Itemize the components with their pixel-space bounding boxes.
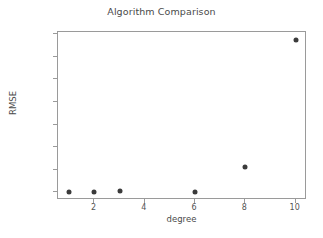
y-axis-label: RMSE bbox=[8, 91, 18, 115]
scatter-point bbox=[92, 190, 97, 195]
y-tick-mark bbox=[53, 191, 57, 192]
scatter-point bbox=[67, 190, 72, 195]
x-tick-mark bbox=[93, 199, 94, 203]
scatter-point bbox=[243, 164, 248, 169]
x-tick-label: 10 bbox=[290, 203, 300, 212]
scatter-point bbox=[117, 189, 122, 194]
scatter-points-layer bbox=[58, 32, 305, 198]
y-tick-mark bbox=[53, 56, 57, 57]
y-tick-mark bbox=[53, 124, 57, 125]
x-axis-label: degree bbox=[57, 214, 306, 224]
chart-figure: Algorithm Comparison RMSE degree 0250500… bbox=[0, 0, 323, 238]
y-tick-mark bbox=[53, 169, 57, 170]
x-tick-mark bbox=[144, 199, 145, 203]
plot-area bbox=[57, 31, 306, 199]
chart-title: Algorithm Comparison bbox=[0, 6, 323, 17]
x-tick-mark bbox=[295, 199, 296, 203]
x-tick-mark bbox=[194, 199, 195, 203]
x-tick-label: 2 bbox=[91, 203, 96, 212]
y-tick-mark bbox=[53, 146, 57, 147]
x-tick-label: 6 bbox=[192, 203, 197, 212]
scatter-point bbox=[193, 189, 198, 194]
scatter-point bbox=[293, 37, 298, 42]
x-tick-mark bbox=[244, 199, 245, 203]
x-tick-label: 4 bbox=[141, 203, 146, 212]
y-tick-mark bbox=[53, 101, 57, 102]
y-tick-mark bbox=[53, 33, 57, 34]
y-tick-mark bbox=[53, 78, 57, 79]
x-tick-label: 8 bbox=[242, 203, 247, 212]
